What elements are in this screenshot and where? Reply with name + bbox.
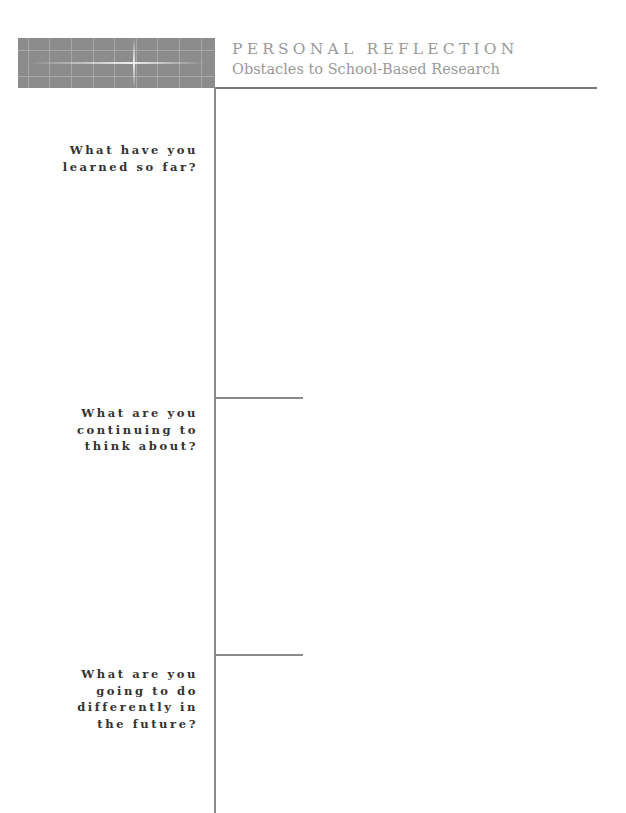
answer-area-learned[interactable] — [218, 95, 618, 393]
grid-line — [18, 50, 215, 51]
prompt-learned: What have you learned so far? — [63, 142, 198, 175]
answer-area-continuing[interactable] — [218, 402, 618, 650]
page-title: Obstacles to School-Based Research — [232, 60, 500, 78]
prompt-line: What are you — [77, 405, 198, 422]
prompt-line: think about? — [77, 438, 198, 455]
column-divider — [214, 87, 216, 813]
prompt-line: What are you — [77, 666, 198, 683]
grid-glow — [18, 62, 215, 64]
prompt-line: differently in — [77, 699, 198, 716]
prompt-line: continuing to — [77, 422, 198, 439]
section-rule — [215, 654, 303, 656]
prompt-continuing: What are you continuing to think about? — [77, 405, 198, 455]
header-rule — [215, 87, 597, 89]
answer-area-future[interactable] — [218, 659, 618, 813]
prompt-future: What are you going to do differently in … — [77, 666, 198, 732]
prompt-line: What have you — [63, 142, 198, 159]
prompt-line: the future? — [77, 716, 198, 733]
prompt-line: going to do — [77, 683, 198, 700]
header-grid-graphic — [18, 38, 215, 88]
section-rule — [215, 397, 303, 399]
page-kicker: PERSONAL REFLECTION — [232, 40, 518, 58]
grid-line — [18, 76, 215, 77]
prompt-line: learned so far? — [63, 159, 198, 176]
